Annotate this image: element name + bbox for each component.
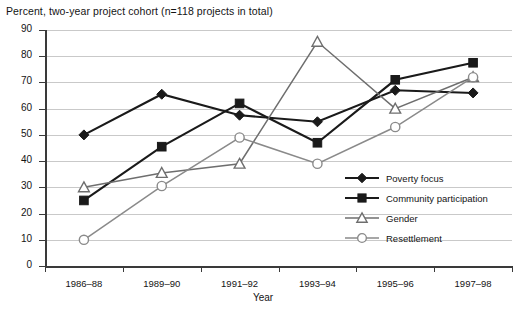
- data-point: [391, 76, 400, 85]
- filled-square-icon: [344, 191, 380, 205]
- filled-diamond-icon: [344, 171, 380, 185]
- legend-item[interactable]: Community participation: [344, 188, 516, 208]
- data-point: [235, 110, 245, 120]
- data-point: [313, 159, 322, 168]
- open-triangle-icon: [344, 211, 380, 225]
- legend-item[interactable]: Poverty focus: [344, 168, 516, 188]
- legend-label: Community participation: [380, 193, 488, 204]
- open-circle-icon: [344, 231, 380, 245]
- data-point: [235, 133, 244, 142]
- data-point: [157, 142, 166, 151]
- data-point: [312, 117, 322, 127]
- chart-container: Percent, two-year project cohort (n=118 …: [0, 0, 526, 311]
- x-axis-title: Year: [0, 292, 526, 303]
- data-point: [79, 235, 88, 244]
- data-point: [468, 73, 477, 82]
- legend-label: Poverty focus: [380, 173, 444, 184]
- data-point: [157, 181, 166, 190]
- data-point: [313, 138, 322, 147]
- legend-label: Resettlement: [380, 233, 442, 244]
- series-plot-layer: [0, 0, 526, 311]
- series-line: [84, 90, 473, 135]
- legend-item[interactable]: Gender: [344, 208, 516, 228]
- data-point: [234, 158, 245, 168]
- data-point: [80, 196, 89, 205]
- legend-item[interactable]: Resettlement: [344, 228, 516, 248]
- data-point: [235, 99, 244, 108]
- data-point: [79, 130, 89, 140]
- legend-label: Gender: [380, 213, 418, 224]
- data-point: [312, 36, 323, 46]
- data-point: [469, 58, 478, 67]
- legend: Poverty focusCommunity participationGend…: [344, 168, 516, 248]
- data-point: [468, 88, 478, 98]
- data-point: [391, 122, 400, 131]
- data-point: [157, 89, 167, 99]
- data-point: [390, 85, 400, 95]
